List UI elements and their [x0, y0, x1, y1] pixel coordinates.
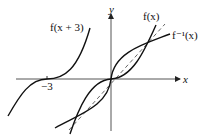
curve-f-inverse	[55, 34, 170, 128]
graph-canvas	[0, 0, 199, 138]
label-minus-3: −3	[41, 81, 53, 92]
label-f-inverse: f⁻¹(x)	[172, 30, 198, 41]
curve-f-x-plus-3	[8, 28, 90, 116]
line-y-equals-x	[69, 24, 165, 130]
label-f: f(x)	[143, 11, 160, 22]
label-x-axis: x	[183, 74, 188, 85]
label-y-axis: y	[109, 4, 114, 15]
label-f-x-plus-3: f(x + 3)	[50, 22, 84, 33]
function-graph-diagram: f(x + 3) f(x) f⁻¹(x) y x −3	[0, 0, 199, 138]
